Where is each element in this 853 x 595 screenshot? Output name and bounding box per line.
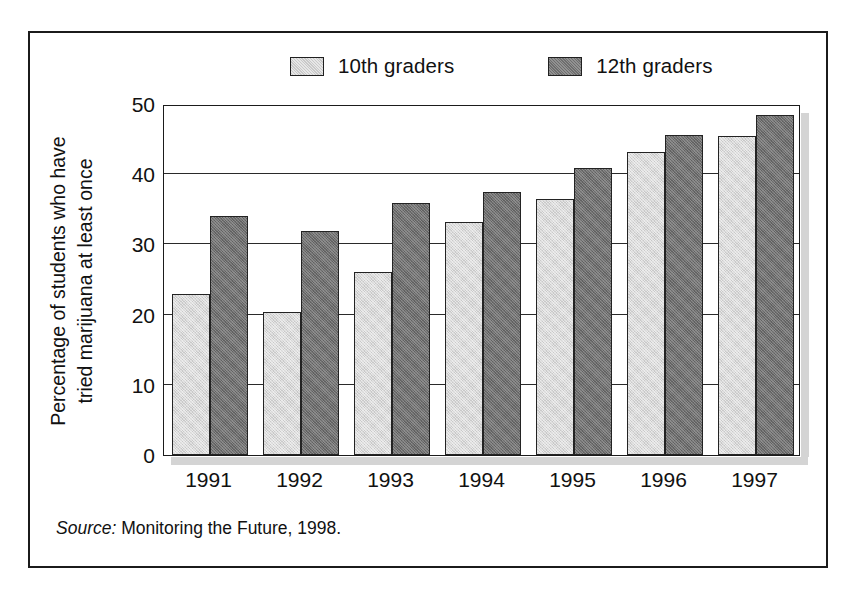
plot-area bbox=[163, 105, 800, 456]
source-text: Monitoring the Future, 1998. bbox=[121, 518, 341, 538]
plot-shadow-bottom bbox=[171, 457, 808, 465]
bar-group-1995 bbox=[528, 106, 619, 455]
x-tick-label-1992: 1992 bbox=[250, 468, 350, 492]
y-tick-label-10: 10 bbox=[105, 374, 155, 398]
x-tick-label-1996: 1996 bbox=[614, 468, 714, 492]
source-caption: Source: Monitoring the Future, 1998. bbox=[56, 518, 341, 539]
source-prefix: Source: bbox=[56, 518, 116, 538]
bar-1994-10th bbox=[445, 222, 483, 455]
legend-entry-12th-graders: 12th graders bbox=[548, 54, 712, 78]
bar-1995-10th bbox=[536, 199, 574, 455]
bars-container bbox=[164, 106, 799, 455]
figure-chart-marijuana-use: 10th graders 12th graders Percentage of … bbox=[0, 0, 853, 595]
legend-swatch-12th-graders bbox=[548, 57, 582, 76]
bar-1996-10th bbox=[627, 152, 665, 455]
x-axis-tick-labels: 1991199219931994199519961997 bbox=[163, 468, 800, 498]
bar-1993-10th bbox=[354, 272, 392, 455]
bar-group-1997 bbox=[710, 106, 801, 455]
bar-group-1991 bbox=[164, 106, 255, 455]
bar-1997-10th bbox=[718, 136, 756, 455]
x-tick-label-1991: 1991 bbox=[159, 468, 259, 492]
bar-1997-12th bbox=[756, 115, 794, 455]
y-tick-label-30: 30 bbox=[105, 233, 155, 257]
x-tick-label-1997: 1997 bbox=[705, 468, 805, 492]
bar-1992-12th bbox=[301, 231, 339, 455]
x-tick-label-1995: 1995 bbox=[523, 468, 623, 492]
chart-legend: 10th graders 12th graders bbox=[290, 54, 713, 78]
y-tick-label-50: 50 bbox=[105, 93, 155, 117]
legend-label-10th-graders: 10th graders bbox=[338, 54, 454, 78]
legend-entry-10th-graders: 10th graders bbox=[290, 54, 454, 78]
bar-1994-12th bbox=[483, 192, 521, 455]
bar-1991-10th bbox=[172, 294, 210, 455]
legend-swatch-10th-graders bbox=[290, 57, 324, 76]
bar-1992-10th bbox=[263, 312, 301, 455]
bar-group-1996 bbox=[619, 106, 710, 455]
x-tick-label-1993: 1993 bbox=[341, 468, 441, 492]
bar-group-1992 bbox=[255, 106, 346, 455]
x-tick-label-1994: 1994 bbox=[432, 468, 532, 492]
y-tick-label-20: 20 bbox=[105, 304, 155, 328]
bar-1993-12th bbox=[392, 203, 430, 455]
bar-1991-12th bbox=[210, 216, 248, 455]
y-tick-label-0: 0 bbox=[105, 444, 155, 468]
legend-label-12th-graders: 12th graders bbox=[596, 54, 712, 78]
plot-shadow-right bbox=[801, 113, 809, 457]
bar-group-1994 bbox=[437, 106, 528, 455]
y-axis-tick-labels: 01020304050 bbox=[105, 105, 155, 456]
bar-group-1993 bbox=[346, 106, 437, 455]
bar-1995-12th bbox=[574, 168, 612, 455]
y-tick-label-40: 40 bbox=[105, 163, 155, 187]
bar-1996-12th bbox=[665, 135, 703, 455]
